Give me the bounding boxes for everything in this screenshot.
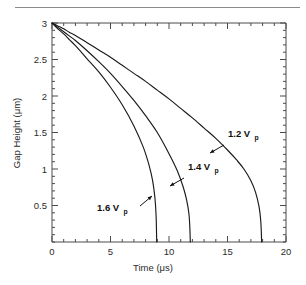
y-tick-label: 2.5 — [34, 54, 47, 65]
y-tick-label: 1 — [42, 164, 47, 175]
series-annotation-subscript: p — [124, 208, 128, 216]
y-axis-title: Gap Height (μm) — [11, 98, 22, 168]
x-tick-label: 5 — [108, 246, 113, 257]
y-tick-label: 2 — [42, 91, 47, 102]
y-tick-label: 3 — [42, 18, 47, 29]
y-axis-tick-labels: 0.511.522.53 — [34, 18, 47, 212]
series-annotation-subscript: p — [215, 167, 219, 175]
figure-container: 05101520 0.511.522.53 Time (μs) Gap Heig… — [0, 0, 306, 285]
series-annotation-subscript: p — [255, 134, 259, 142]
series-annotation-label: 1.4 V — [188, 161, 211, 172]
series-annotation-label: 1.2 V — [228, 128, 251, 139]
y-tick-label: 0.5 — [34, 200, 47, 211]
x-axis-tick-labels: 05101520 — [49, 246, 291, 257]
y-tick-label: 1.5 — [34, 127, 47, 138]
plot-frame — [52, 23, 286, 242]
axes-frame — [52, 23, 286, 242]
series-curve-1-4-vp — [52, 23, 190, 242]
series-annotation-label: 1.6 V — [97, 202, 120, 213]
y-axis-minor-ticks — [52, 30, 286, 242]
gap-height-vs-time-chart: 05101520 0.511.522.53 Time (μs) Gap Heig… — [0, 0, 306, 285]
x-tick-label: 15 — [222, 246, 233, 257]
x-tick-label: 0 — [49, 246, 54, 257]
x-axis-title: Time (μs) — [133, 262, 173, 273]
x-tick-label: 10 — [164, 246, 175, 257]
x-tick-label: 20 — [281, 246, 292, 257]
x-axis-major-ticks — [52, 23, 286, 242]
